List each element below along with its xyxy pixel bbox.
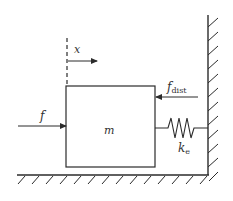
- spring-stiffness-label: ke: [178, 141, 190, 156]
- disturbance-force-label: fdist: [166, 80, 187, 95]
- spring: [155, 118, 208, 138]
- mass-spring-diagram: x m f fdist ke: [0, 0, 233, 201]
- wall: [208, 15, 218, 181]
- ground: [17, 175, 209, 184]
- applied-force-label: f: [39, 109, 47, 123]
- displacement-label: x: [74, 43, 81, 56]
- mass-label: m: [104, 124, 114, 137]
